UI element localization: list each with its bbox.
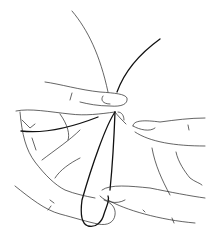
thread — [21, 11, 160, 226]
hands-thread-illustration — [0, 0, 220, 247]
right-hand — [100, 118, 205, 223]
lower-hand — [15, 186, 115, 225]
